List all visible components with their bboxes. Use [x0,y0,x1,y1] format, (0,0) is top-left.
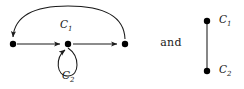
left-graph-loop-label: C2 [62,69,75,81]
right-graph-bottom-label-base: C [219,63,227,75]
graph-diagram-svg [0,0,244,89]
right-graph-top-label-base: C [219,13,227,25]
left-graph-arc-label-subscript: 1 [68,25,72,33]
left-graph-loop-label-subscript: 2 [70,76,74,84]
node-v3 [122,41,128,47]
left-graph-arc-label: C1 [60,18,73,30]
node-u2 [204,68,210,74]
node-v1 [10,41,16,47]
right-graph-bottom-label: C2 [219,63,232,75]
node-v2 [65,41,71,47]
left-graph-loop-label-base: C [62,69,70,81]
right-graph-top-label: C1 [219,13,232,25]
node-u1 [204,18,210,24]
conjunction-text: and [150,36,192,50]
right-graph [204,18,210,74]
figure-container: and C1 C2 C1 C2 [0,0,244,89]
left-graph-arc-label-base: C [60,18,68,30]
right-graph-bottom-label-subscript: 2 [227,70,231,78]
left-graph [10,6,128,76]
right-graph-top-label-subscript: 1 [227,20,231,28]
